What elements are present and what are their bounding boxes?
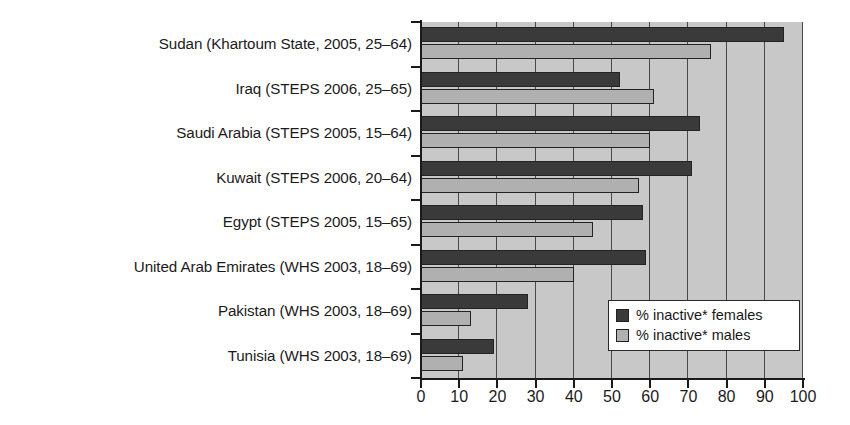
legend-item-males: % inactive* males bbox=[616, 325, 792, 345]
category-axis: Sudan (Khartoum State, 2005, 25–64)Iraq … bbox=[0, 22, 412, 378]
chart-legend: % inactive* females % inactive* males bbox=[608, 300, 800, 351]
x-axis-tick-labels: 0102030405060708090100 bbox=[0, 388, 850, 416]
x-axis-tick bbox=[649, 380, 651, 388]
x-axis-tick-label: 10 bbox=[450, 388, 468, 406]
bar-females bbox=[421, 294, 528, 309]
x-axis-tick bbox=[611, 380, 613, 388]
y-axis-tick bbox=[411, 333, 420, 335]
gridline bbox=[802, 22, 803, 378]
y-axis-tick bbox=[411, 288, 420, 290]
x-axis-tick-label: 70 bbox=[679, 388, 697, 406]
y-axis-tick bbox=[411, 110, 420, 112]
category-label: Sudan (Khartoum State, 2005, 25–64) bbox=[0, 36, 412, 52]
category-label: United Arab Emirates (WHS 2003, 18–69) bbox=[0, 259, 412, 275]
category-label: Iraq (STEPS 2006, 25–65) bbox=[0, 81, 412, 97]
bar-males bbox=[421, 133, 650, 148]
y-axis-tick bbox=[411, 155, 420, 157]
bar-females bbox=[421, 205, 643, 220]
x-axis-tick bbox=[496, 380, 498, 388]
x-axis-tick bbox=[687, 380, 689, 388]
category-label: Pakistan (WHS 2003, 18–69) bbox=[0, 303, 412, 319]
x-axis-tick-label: 20 bbox=[488, 388, 506, 406]
bar-males bbox=[421, 222, 593, 237]
x-axis-tick-label: 30 bbox=[527, 388, 545, 406]
legend-label-males: % inactive* males bbox=[636, 327, 750, 343]
legend-label-females: % inactive* females bbox=[636, 307, 763, 323]
x-axis-tick-label: 90 bbox=[756, 388, 774, 406]
bar-males bbox=[421, 311, 471, 326]
x-axis-tick-label: 80 bbox=[718, 388, 736, 406]
x-axis-tick-label: 40 bbox=[565, 388, 583, 406]
bar-males bbox=[421, 89, 654, 104]
category-label: Tunisia (WHS 2003, 18–69) bbox=[0, 348, 412, 364]
category-label: Saudi Arabia (STEPS 2005, 15–64) bbox=[0, 125, 412, 141]
y-axis-tick bbox=[411, 377, 420, 379]
y-axis-line bbox=[420, 20, 422, 380]
x-axis-tick bbox=[764, 380, 766, 388]
bar-females bbox=[421, 27, 784, 42]
bar-females bbox=[421, 339, 494, 354]
legend-item-females: % inactive* females bbox=[616, 305, 792, 325]
bar-males bbox=[421, 178, 639, 193]
y-axis-tick bbox=[411, 66, 420, 68]
legend-swatch-males-icon bbox=[616, 329, 629, 342]
x-axis-tick-label: 0 bbox=[417, 388, 426, 406]
x-axis-tick bbox=[420, 380, 422, 388]
y-axis-tick bbox=[411, 199, 420, 201]
legend-swatch-females-icon bbox=[616, 309, 629, 322]
bar-females bbox=[421, 116, 700, 131]
x-axis-tick bbox=[458, 380, 460, 388]
y-axis-tick bbox=[411, 21, 420, 23]
bar-males bbox=[421, 267, 574, 282]
y-axis-tick bbox=[411, 244, 420, 246]
x-axis-tick bbox=[573, 380, 575, 388]
x-axis-tick bbox=[726, 380, 728, 388]
bar-females bbox=[421, 72, 620, 87]
x-axis-tick bbox=[535, 380, 537, 388]
x-axis-tick-label: 100 bbox=[790, 388, 817, 406]
category-label: Egypt (STEPS 2005, 15–65) bbox=[0, 214, 412, 230]
bar-females bbox=[421, 250, 646, 265]
x-axis-tick bbox=[802, 380, 804, 388]
bar-females bbox=[421, 161, 692, 176]
category-label: Kuwait (STEPS 2006, 20–64) bbox=[0, 170, 412, 186]
bar-males bbox=[421, 356, 463, 371]
bar-chart-figure: Sudan (Khartoum State, 2005, 25–64)Iraq … bbox=[0, 0, 850, 425]
x-axis-tick-label: 60 bbox=[641, 388, 659, 406]
bar-males bbox=[421, 44, 711, 59]
x-axis-tick-label: 50 bbox=[603, 388, 621, 406]
